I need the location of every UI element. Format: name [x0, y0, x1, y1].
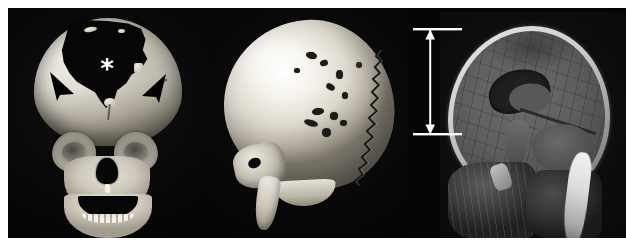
panel-frontal-ct: * — [8, 8, 208, 238]
wormian-bone — [322, 128, 331, 137]
panel-oblique-ct — [208, 8, 408, 238]
asterisk-annotation-icon: * — [92, 54, 122, 84]
bone-island — [118, 29, 125, 33]
panel-sagittal-mri — [408, 8, 626, 238]
nasal-septum — [105, 184, 110, 193]
wormian-bone — [340, 120, 347, 126]
nasal-aperture — [96, 158, 118, 184]
mri-image — [440, 12, 626, 238]
wormian-bone — [342, 92, 348, 99]
wormian-bone — [356, 62, 362, 68]
wormian-bone — [336, 70, 343, 79]
wormian-bone — [294, 68, 300, 73]
medical-imaging-figure: * — [0, 0, 626, 250]
wormian-bone — [330, 112, 338, 120]
